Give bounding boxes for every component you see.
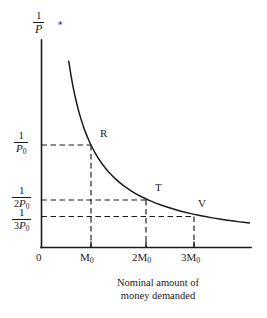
y-tick-label-1-over-3p0: 1 3P0 [12, 207, 31, 231]
y-axis-title: 1 P [33, 10, 44, 35]
guide-lines [42, 145, 195, 247]
curve-point-label-v: V [198, 198, 206, 209]
x-tick-subscript: 0 [90, 256, 94, 265]
demand-curve [69, 61, 250, 223]
x-tick-symbol: M [187, 251, 197, 263]
y-axis-title-numerator: 1 [33, 10, 44, 21]
x-axis-title-line-1: Nominal amount of [98, 276, 218, 289]
x-tick-label-3m0: 3M0 [181, 252, 200, 263]
y-tick-numerator: 1 [14, 130, 28, 141]
x-axis-title-line-2: money demanded [98, 289, 218, 302]
x-tick-subscript: 0 [196, 256, 200, 265]
y-tick-fraction: 1 3P0 [12, 207, 31, 231]
chart-figure: ∗ 1 P 1 P0 1 2P0 1 3P0 0 M0 [0, 0, 267, 318]
y-tick-denom-symbol: P [19, 219, 26, 231]
x-axis-origin-label: 0 [36, 252, 42, 263]
y-tick-denom-symbol: P [16, 142, 23, 154]
y-axis-title-denominator: P [33, 23, 44, 35]
y-axis-title-fraction: 1 P [33, 10, 44, 35]
x-tick-label-2m0: 2M0 [132, 252, 151, 263]
y-tick-numerator: 1 [12, 207, 31, 218]
x-tick-symbol: M [80, 251, 90, 263]
top-asterisk-mark: ∗ [57, 19, 63, 28]
y-tick-label-1-over-p0: 1 P0 [14, 130, 28, 154]
x-axis-title: Nominal amount of money demanded [98, 276, 218, 302]
x-axis-ticks [91, 242, 194, 248]
y-tick-denom-subscript: 0 [23, 147, 27, 156]
y-tick-fraction: 1 P0 [14, 130, 28, 154]
y-tick-denom-subscript: 0 [26, 224, 30, 233]
y-tick-denominator: P0 [14, 143, 28, 154]
curve-point-label-t: T [155, 182, 162, 193]
x-tick-symbol: M [138, 251, 148, 263]
y-tick-denominator: 3P0 [12, 220, 31, 231]
curve-point-label-r: R [100, 128, 107, 139]
x-tick-label-m0: M0 [80, 252, 94, 263]
y-tick-numerator: 1 [12, 185, 31, 196]
chart-canvas [0, 0, 267, 318]
x-tick-subscript: 0 [147, 256, 151, 265]
